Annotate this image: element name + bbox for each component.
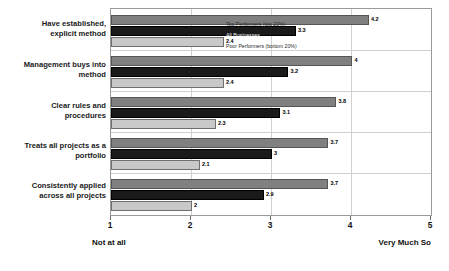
category-label-line: Clear rules and (2, 101, 106, 111)
category-label-3: Treats all projects as a portfolio (2, 141, 106, 161)
bar-all-businesses (111, 26, 296, 36)
category-label-0: Have established, explicit method (2, 19, 106, 39)
bar-value-label: 3.1 (283, 110, 291, 116)
bar-top-performers (111, 97, 336, 107)
bar-all-businesses (111, 67, 288, 77)
category-label-1: Management buys into method (2, 60, 106, 80)
bar-poor-performers (111, 160, 200, 170)
gridline-4 (351, 9, 352, 215)
bar-all-businesses (111, 108, 280, 118)
bar-value-label: 3.7 (331, 140, 339, 146)
category-separator (111, 50, 431, 51)
bar-value-label: 2.4 (226, 80, 234, 86)
bar-value-label: 2.9 (266, 192, 274, 198)
bar-all-businesses (111, 190, 264, 200)
bar-chart: Have established, explicit method Manage… (0, 0, 449, 271)
axis-endpoint-high: Very Much So (379, 238, 431, 247)
category-label-line: explicit method (2, 29, 106, 39)
category-label-line: Consistently applied (2, 181, 106, 191)
bar-top-performers (111, 56, 352, 66)
bar-value-label: 3.2 (291, 69, 299, 75)
category-label-line: Management buys into (2, 60, 106, 70)
category-separator (111, 173, 431, 174)
legend-item-top-performers: Top Performers (top 20%) (226, 22, 285, 27)
category-label-line: method (2, 70, 106, 80)
x-tick-label-3: 3 (268, 220, 273, 230)
category-label-2: Clear rules and procedures (2, 101, 106, 121)
category-label-line: Treats all projects as a (2, 141, 106, 151)
bar-poor-performers (111, 119, 216, 129)
bar-top-performers (111, 138, 328, 148)
bar-all-businesses (111, 149, 272, 159)
x-tick-label-1: 1 (108, 220, 113, 230)
bar-value-label: 4.2 (371, 17, 379, 23)
axis-endpoint-captions: Not at all Very Much So (0, 238, 449, 252)
category-label-line: across all projects (2, 191, 106, 201)
bar-value-label: 2.3 (218, 121, 226, 127)
plot-area: 4.2 3.3 2.4 4 3.2 2.4 3.8 3 (110, 8, 432, 216)
bar-value-label: 3.8 (339, 99, 347, 105)
bar-value-label: 3.3 (298, 28, 306, 34)
legend-item-poor-performers: Poor Performers (bottom 20%) (226, 44, 297, 49)
x-tick-label-2: 2 (188, 220, 193, 230)
category-separator (111, 91, 431, 92)
x-tick-label-5: 5 (428, 220, 433, 230)
bar-value-label: 3.7 (331, 181, 339, 187)
bar-value-label: 3 (274, 151, 277, 157)
bar-poor-performers (111, 78, 224, 88)
bar-poor-performers (111, 37, 224, 47)
category-label-line: portfolio (2, 151, 106, 161)
bar-value-label: 2 (194, 203, 197, 209)
bar-value-label: 4 (355, 58, 358, 64)
bar-top-performers (111, 179, 328, 189)
bar-poor-performers (111, 201, 192, 211)
axis-endpoint-low: Not at all (92, 238, 126, 247)
bar-value-label: 2.1 (202, 162, 210, 168)
category-label-line: Have established, (2, 19, 106, 29)
category-label-line: procedures (2, 111, 106, 121)
x-axis: 1 2 3 4 5 (110, 216, 432, 230)
x-tick-label-4: 4 (348, 220, 353, 230)
legend-item-all-businesses: All Businesses (226, 33, 260, 38)
category-separator (111, 132, 431, 133)
category-label-4: Consistently applied across all projects (2, 181, 106, 201)
